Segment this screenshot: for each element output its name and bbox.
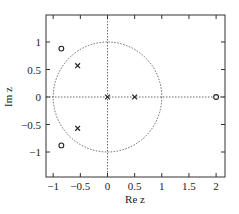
pole-marker — [75, 126, 80, 131]
pole-marker — [75, 63, 80, 68]
ticks: −1−0.500.511.5210.50−0.5−1 — [21, 15, 225, 192]
x-tick-label: 0.5 — [128, 180, 142, 192]
zero-marker — [214, 95, 219, 100]
pole-zero-plot: −1−0.500.511.5210.50−0.5−1 Re z Im z — [0, 0, 239, 214]
x-tick-label: −1 — [47, 180, 59, 192]
x-tick-label: 1.5 — [182, 180, 196, 192]
x-tick-label: 2 — [213, 180, 219, 192]
y-axis-label: Im z — [2, 87, 14, 107]
y-tick-label: −1 — [29, 146, 41, 158]
x-tick-label: −0.5 — [70, 180, 90, 192]
zero-marker — [59, 46, 64, 51]
y-tick-label: 0 — [36, 91, 42, 103]
x-axis-label: Re z — [125, 193, 145, 205]
x-tick-label: 0 — [105, 180, 111, 192]
x-tick-label: 1 — [159, 180, 165, 192]
y-tick-label: 0.5 — [27, 64, 41, 76]
y-tick-label: −0.5 — [21, 119, 41, 131]
y-tick-label: 1 — [36, 36, 42, 48]
zero-marker — [59, 143, 64, 148]
